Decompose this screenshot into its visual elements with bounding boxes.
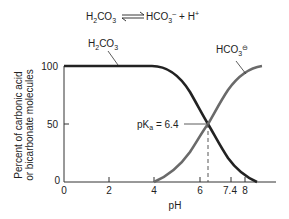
h2co3-label: H2CO3 [88,38,118,51]
x-tick-6: 6 [197,185,203,196]
equation-right: HCO3–+ H+ [146,10,199,24]
x-tick-7.4: 7.4 [223,185,237,196]
h2co3-leader [108,51,118,65]
y-tick-100: 100 [41,61,58,72]
svg-text:Percent of carbonic acid: Percent of carbonic acid [13,71,24,178]
y-axis-label: Percent of carbonic acid or bicarbonate … [13,69,35,181]
x-tick-4: 4 [151,185,157,196]
x-tick-2: 2 [106,185,112,196]
pka-label: pKa = 6.4 [137,119,179,131]
x-axis-label: pH [169,200,182,211]
svg-text:or bicarbonate molecules: or bicarbonate molecules [24,69,35,181]
x-tick-8: 8 [242,185,248,196]
hco3-leader [236,61,246,74]
y-tick-50: 50 [47,119,59,130]
hco3-label: HCO3⊖ [216,44,248,57]
y-tick-0: 0 [54,175,60,186]
equation: H2CO3 [86,11,116,24]
x-tick-0: 0 [61,185,67,196]
chart: H2CO3 HCO3–+ H+ Percent of carbonic acid… [0,0,289,219]
equilibrium-arrows-icon [122,12,144,21]
